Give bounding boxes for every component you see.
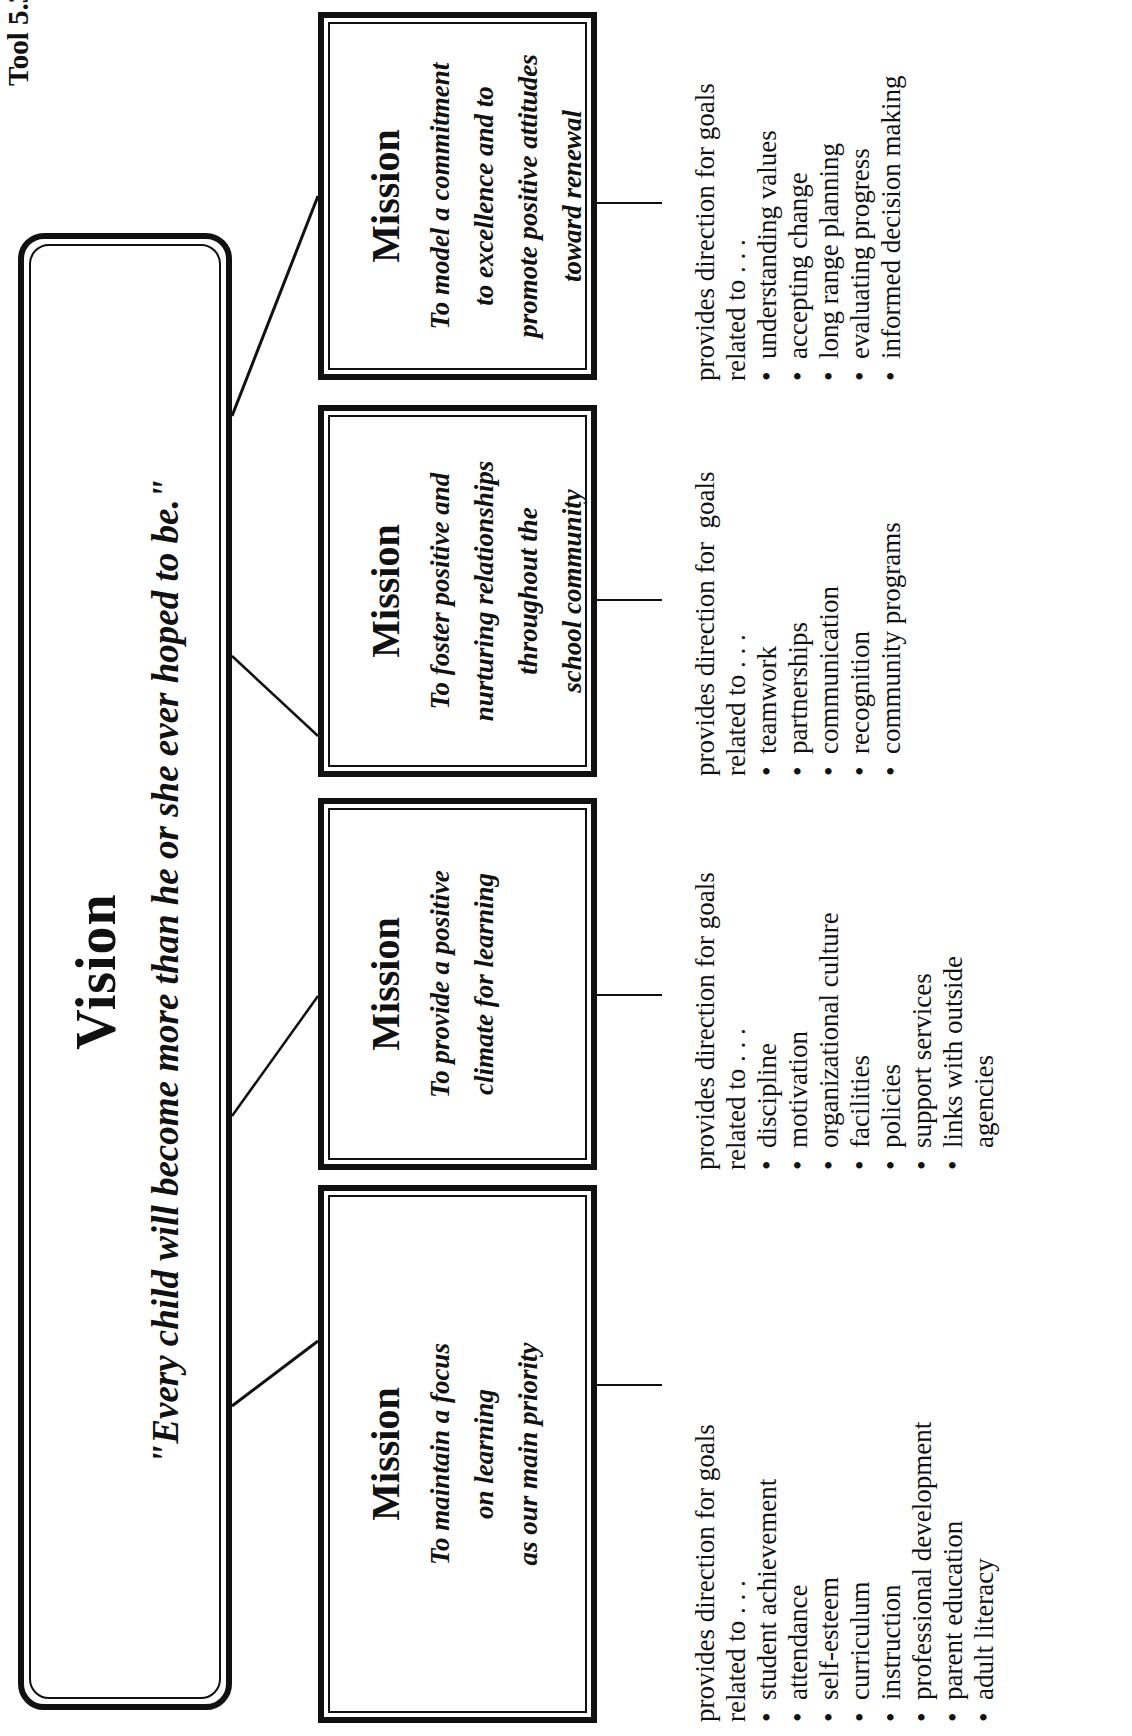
bullet-icon: •	[752, 1700, 783, 1722]
goal-item: •support services	[907, 872, 938, 1170]
mission-line: climate for learning	[462, 804, 506, 1164]
bullet-icon: •	[876, 1148, 907, 1170]
mission-line: to excellence and to	[462, 18, 506, 374]
bullet-icon: •	[783, 754, 814, 776]
mission-line: promote positive attitudes	[506, 18, 550, 374]
bullet-icon: •	[938, 1148, 969, 1170]
mission-statement: To foster positive and nurturing relatio…	[418, 411, 594, 771]
bullet-icon: •	[938, 1700, 969, 1722]
bullet-icon: •	[814, 359, 845, 381]
goal-item-continuation: agencies	[969, 872, 1000, 1170]
goal-item: •student achievement	[752, 1422, 783, 1722]
bullet-icon: •	[845, 359, 876, 381]
goal-item: •links with outside	[938, 872, 969, 1170]
goal-item: •policies	[876, 872, 907, 1170]
mission-box-2: Mission To provide a positive climate fo…	[318, 798, 597, 1170]
mission-line: on learning	[462, 1191, 506, 1717]
goal-item: •understanding values	[752, 76, 783, 381]
bullet-icon: •	[752, 1148, 783, 1170]
goal-item: •organizational culture	[814, 872, 845, 1170]
connector-mission-3	[232, 656, 318, 736]
goals-intro: provides direction for goals	[690, 76, 721, 381]
bullet-icon: •	[752, 359, 783, 381]
bullet-icon: •	[752, 754, 783, 776]
connector-mission-1	[232, 1341, 318, 1406]
goals-intro: related to . . .	[721, 76, 752, 381]
bullet-icon: •	[814, 1700, 845, 1722]
goals-intro: provides direction for goals	[690, 472, 721, 776]
goal-item: •facilities	[845, 872, 876, 1170]
bullet-icon: •	[783, 1700, 814, 1722]
goal-item: •self-esteem	[814, 1422, 845, 1722]
goals-list-4: provides direction for goals related to …	[690, 76, 907, 381]
diagram-canvas: Tool 5.3 Vision "Every child will become…	[0, 0, 1132, 1736]
bullet-icon: •	[845, 1700, 876, 1722]
bullet-icon: •	[969, 1700, 1000, 1722]
mission-statement: To maintain a focus on learning as our m…	[418, 1191, 550, 1717]
mission-title: Mission	[362, 411, 409, 771]
goals-intro: provides direction for goals	[690, 872, 721, 1170]
vision-title: Vision	[64, 239, 128, 1704]
bullet-icon: •	[876, 754, 907, 776]
mission-line: To model a commitment	[418, 18, 462, 374]
goals-list-2: provides direction for goals related to …	[690, 872, 1000, 1170]
bullet-icon: •	[845, 754, 876, 776]
bullet-icon: •	[876, 359, 907, 381]
goal-item: •informed decision making	[876, 76, 907, 381]
vision-quote: "Every child will become more than he or…	[144, 239, 187, 1704]
goal-item: •evaluating progress	[845, 76, 876, 381]
mission-line: To foster positive and	[418, 411, 462, 771]
goals-intro: related to . . .	[721, 1422, 752, 1722]
goal-item: •adult literacy	[969, 1422, 1000, 1722]
connector-mission-2	[232, 996, 318, 1116]
mission-title: Mission	[362, 1191, 409, 1717]
mission-box-3: Mission To foster positive and nurturing…	[318, 405, 597, 777]
goal-item: •teamwork	[752, 472, 783, 776]
mission-line: throughout the	[506, 411, 550, 771]
goal-item: •long range planning	[814, 76, 845, 381]
mission-line: school community	[550, 411, 594, 771]
mission-line: as our main priority	[506, 1191, 550, 1717]
mission-box-4: Mission To model a commitment to excelle…	[318, 12, 597, 380]
goals-intro: related to . . .	[721, 872, 752, 1170]
goal-item: •accepting change	[783, 76, 814, 381]
vision-box: Vision "Every child will become more tha…	[18, 233, 232, 1710]
mission-title: Mission	[362, 804, 409, 1164]
bullet-icon: •	[783, 359, 814, 381]
goals-intro: provides direction for goals	[690, 1422, 721, 1722]
goal-item: •professional development	[907, 1422, 938, 1722]
bullet-icon: •	[845, 1148, 876, 1170]
bullet-icon: •	[814, 1148, 845, 1170]
goal-item: •recognition	[845, 472, 876, 776]
bullet-icon: •	[907, 1700, 938, 1722]
goal-item: •parent education	[938, 1422, 969, 1722]
goal-item: •curriculum	[845, 1422, 876, 1722]
mission-line: To provide a positive	[418, 804, 462, 1164]
goal-item: •attendance	[783, 1422, 814, 1722]
mission-title: Mission	[362, 18, 409, 374]
goal-item: •community programs	[876, 472, 907, 776]
goals-list-3: provides direction for goals related to …	[690, 472, 907, 776]
goals-intro: related to . . .	[721, 472, 752, 776]
goals-list-1: provides direction for goals related to …	[690, 1422, 1000, 1722]
goal-item: •motivation	[783, 872, 814, 1170]
goal-item: •instruction	[876, 1422, 907, 1722]
goal-item: •discipline	[752, 872, 783, 1170]
goal-item: •partnerships	[783, 472, 814, 776]
connector-mission-4	[232, 196, 318, 416]
bullet-icon: •	[814, 754, 845, 776]
bullet-icon: •	[783, 1148, 814, 1170]
mission-box-1: Mission To maintain a focus on learning …	[318, 1185, 597, 1723]
goal-item: •communication	[814, 472, 845, 776]
bullet-icon: •	[876, 1700, 907, 1722]
tool-label: Tool 5.3	[2, 0, 35, 86]
mission-line: toward renewal	[550, 18, 594, 374]
mission-statement: To provide a positive climate for learni…	[418, 804, 506, 1164]
mission-statement: To model a commitment to excellence and …	[418, 18, 594, 374]
bullet-icon: •	[907, 1148, 938, 1170]
mission-line: nurturing relationships	[462, 411, 506, 771]
mission-line: To maintain a focus	[418, 1191, 462, 1717]
